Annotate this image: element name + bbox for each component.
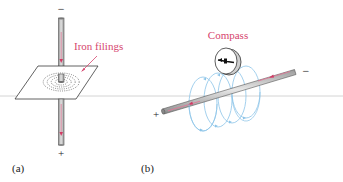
wire-lower [58, 99, 64, 146]
positive-terminal-label: + [153, 108, 159, 120]
negative-terminal-label: − [303, 64, 310, 78]
conductor-rod [161, 70, 296, 115]
current-arrow-icon [269, 74, 274, 77]
positive-terminal-label: + [58, 147, 64, 159]
compass [215, 48, 241, 75]
panel-b: Compass + − (b) [141, 29, 310, 175]
negative-terminal-label: − [58, 2, 65, 16]
panel-a-caption: (a) [12, 162, 25, 175]
figure-canvas: Iron filings − + (a) [0, 0, 343, 182]
panel-b-caption: (b) [141, 162, 154, 175]
panel-a: Iron filings − + (a) [12, 2, 123, 175]
compass-label: Compass [208, 29, 248, 41]
iron-filings-label: Iron filings [74, 40, 123, 52]
cardboard-plane [15, 66, 98, 99]
